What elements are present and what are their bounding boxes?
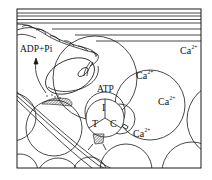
calcium-ion-right-middle: Ca2+ bbox=[158, 96, 175, 107]
adp-pi-label: ADP+Pi bbox=[20, 45, 52, 55]
calcium-ion-upper-middle: Ca2+ bbox=[136, 70, 153, 81]
calcium-ion-bound: Ca2+ bbox=[133, 128, 150, 139]
binding-site-hatch bbox=[42, 98, 72, 106]
troponin-c-label: C bbox=[110, 119, 117, 129]
myosin-head bbox=[40, 51, 101, 102]
adp-release-arrow bbox=[34, 58, 46, 93]
ca-binding-site bbox=[122, 124, 128, 129]
thick-filament-lines bbox=[17, 13, 201, 41]
calcium-ion-top-right: Ca2+ bbox=[180, 45, 197, 56]
atp-label: ATP bbox=[97, 85, 114, 95]
troponin-t-label: T bbox=[92, 119, 98, 129]
troponin-i-label: I bbox=[102, 103, 105, 113]
troponin-linker bbox=[93, 134, 104, 144]
